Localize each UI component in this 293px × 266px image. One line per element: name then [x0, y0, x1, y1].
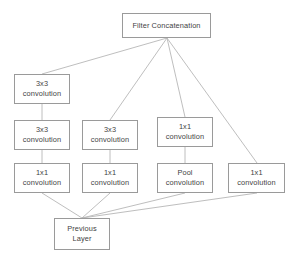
node-label-secondary: convolution: [23, 178, 62, 188]
node-label-primary: 1x1: [179, 122, 191, 132]
edge-previous-to-conv1x1-bottom-left: [42, 193, 82, 218]
node-label-primary: 1x1: [36, 168, 48, 178]
node-pool-convolution[interactable]: Poolconvolution: [157, 163, 213, 193]
node-label-secondary: convolution: [91, 178, 130, 188]
node-conv3x3-top-left[interactable]: 3x3convolution: [14, 74, 70, 104]
node-label-primary: 3x3: [36, 79, 48, 89]
node-label-primary: 1x1: [250, 168, 262, 178]
node-label-primary: Filter Concatenation: [132, 21, 200, 31]
node-label-secondary: Layer: [73, 234, 92, 244]
node-label-secondary: convolution: [237, 178, 276, 188]
node-label-secondary: convolution: [166, 178, 205, 188]
node-label-secondary: convolution: [91, 135, 130, 145]
node-label-primary: 1x1: [104, 168, 116, 178]
edge-conv3x3-mid-center-to-filter: [110, 38, 167, 120]
node-label-primary: Pool: [177, 168, 192, 178]
node-label-secondary: convolution: [23, 89, 62, 99]
inception-module-diagram: Filter Concatenation3x3convolution3x3con…: [0, 0, 293, 266]
node-label-secondary: convolution: [23, 135, 62, 145]
node-conv1x1-bottom-left[interactable]: 1x1convolution: [14, 163, 70, 193]
node-label-secondary: convolution: [166, 132, 205, 142]
node-label-primary: Previous: [67, 224, 97, 234]
node-filter-concatenation[interactable]: Filter Concatenation: [122, 13, 211, 38]
node-conv1x1-bottom-center[interactable]: 1x1convolution: [82, 163, 138, 193]
node-conv1x1-far-right[interactable]: 1x1convolution: [228, 163, 285, 193]
node-label-primary: 3x3: [36, 125, 48, 135]
node-label-primary: 3x3: [104, 125, 116, 135]
edge-conv3x3-top-left-to-filter: [42, 38, 167, 74]
node-conv3x3-mid-left[interactable]: 3x3convolution: [14, 120, 70, 150]
node-previous-layer[interactable]: PreviousLayer: [54, 218, 110, 250]
node-conv1x1-mid-right[interactable]: 1x1convolution: [157, 117, 213, 147]
node-conv3x3-mid-center[interactable]: 3x3convolution: [82, 120, 138, 150]
